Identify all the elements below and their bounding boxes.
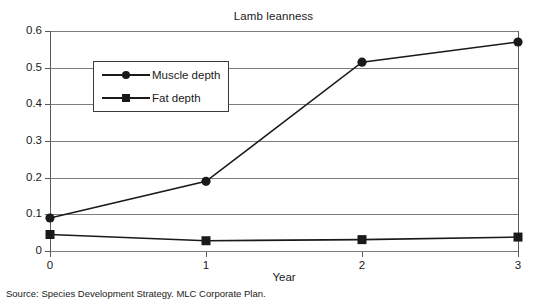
y-tick-mark-0.6 [45, 31, 50, 32]
chart-title: Lamb leanness [0, 10, 547, 22]
y-tick-label-0.6: 0.6 [2, 24, 42, 36]
y-tick-mark-0.1 [45, 214, 50, 215]
x-tick-mark-0 [50, 252, 51, 257]
y-tick-label-0.4: 0.4 [2, 97, 42, 109]
y-tick-label-0.3: 0.3 [2, 134, 42, 146]
y-tick-label-0: 0 [2, 244, 42, 256]
legend-label-muscle-depth: Muscle depth [152, 69, 220, 81]
right-axis-line [518, 31, 519, 252]
x-axis-title: Year [50, 271, 518, 283]
x-tick-label-1: 1 [191, 259, 221, 271]
x-tick-label-0: 0 [35, 259, 65, 271]
y-tick-mark-0.5 [45, 68, 50, 69]
legend-item-fat-depth: Fat depth [94, 86, 228, 110]
y-axis-line [50, 31, 51, 252]
gridline-0 [50, 251, 518, 252]
y-tick-label-0.1: 0.1 [2, 207, 42, 219]
y-tick-mark-0.2 [45, 178, 50, 179]
gridline-0.6 [50, 31, 518, 32]
gridline-0.3 [50, 141, 518, 142]
x-tick-label-2: 2 [347, 259, 377, 271]
x-tick-mark-3 [518, 252, 519, 257]
legend-item-muscle-depth: Muscle depth [94, 63, 228, 87]
chart-figure: Lamb leanness 0.6 0.5 0.4 0.3 0.2 0.1 0 … [0, 0, 547, 305]
gridline-0.2 [50, 178, 518, 179]
chart-legend: Muscle depth Fat depth [93, 61, 229, 112]
circle-marker-icon [100, 65, 152, 85]
legend-label-fat-depth: Fat depth [152, 92, 201, 104]
x-tick-mark-2 [362, 252, 363, 257]
y-tick-mark-0.4 [45, 104, 50, 105]
y-tick-label-0.2: 0.2 [2, 171, 42, 183]
x-tick-mark-1 [206, 252, 207, 257]
y-tick-label-0.5: 0.5 [2, 61, 42, 73]
y-tick-mark-0.3 [45, 141, 50, 142]
source-note: Source: Species Development Strategy. ML… [6, 288, 266, 299]
gridline-0.1 [50, 214, 518, 215]
x-tick-label-3: 3 [503, 259, 533, 271]
square-marker-icon [100, 88, 152, 108]
